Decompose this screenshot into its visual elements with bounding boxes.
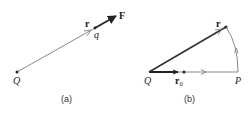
initial-position-point [183, 71, 186, 74]
figure-a: r q F Q (a) [13, 10, 125, 104]
label-r0: r0 [175, 75, 183, 87]
position-arrowhead-a [84, 30, 91, 36]
position-vector-b [149, 27, 226, 72]
label-r-b: r [216, 18, 221, 29]
caption-b: (b) [184, 94, 195, 104]
label-q: q [94, 29, 99, 40]
label-Q-a: Q [13, 75, 21, 86]
label-r0-subscript: 0 [179, 80, 182, 87]
force-vector [95, 16, 116, 28]
figure-b: r Q r0 P (b) [144, 18, 241, 104]
label-r-a: r [85, 18, 90, 29]
label-F: F [119, 10, 125, 21]
label-Q-b: Q [144, 75, 152, 86]
position-line-a [17, 28, 95, 72]
source-charge-point-a [16, 71, 19, 74]
label-P: P [234, 75, 241, 86]
caption-a: (a) [61, 94, 72, 104]
electrostatics-diagram: r q F Q (a) r Q r0 P (b) [0, 0, 248, 114]
